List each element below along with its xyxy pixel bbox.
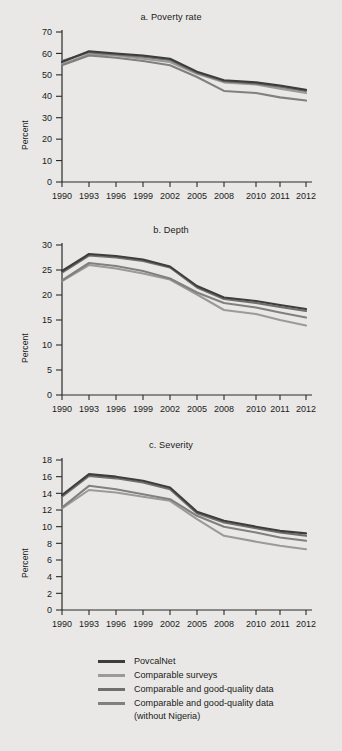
svg-text:2011: 2011 [270,619,289,629]
panel-depth: b. Depth Percent 05101520253019901993199… [0,215,342,430]
svg-text:20: 20 [42,134,52,144]
svg-text:0: 0 [47,605,52,615]
svg-text:1993: 1993 [79,619,99,629]
svg-text:2011: 2011 [270,404,289,414]
svg-text:15: 15 [42,315,52,325]
svg-text:50: 50 [42,70,52,80]
legend-swatch-good-quality-no-nigeria [98,702,125,705]
svg-text:70: 70 [42,27,52,37]
svg-text:0: 0 [47,177,52,187]
panel-poverty-rate: a. Poverty rate Percent 0102030405060701… [0,0,342,215]
svg-text:2012: 2012 [296,404,316,414]
legend-item-povcalnet: PovcalNet [0,655,342,668]
svg-text:40: 40 [42,91,52,101]
svg-text:1993: 1993 [79,191,99,201]
svg-text:10: 10 [42,522,52,532]
panel-severity: c. Severity Percent 02468101214161819901… [0,430,342,645]
svg-text:25: 25 [42,265,52,275]
svg-text:2008: 2008 [214,191,234,201]
svg-text:1990: 1990 [52,619,72,629]
svg-text:12: 12 [42,505,52,515]
plot-area-c: Percent 02468101214161819901993199619992… [0,450,342,645]
legend-label-good-quality-no-nigeria: Comparable and good-quality data (withou… [134,697,274,722]
svg-text:1996: 1996 [106,191,126,201]
svg-text:0: 0 [47,390,52,400]
svg-text:1990: 1990 [52,191,72,201]
svg-text:4: 4 [47,572,52,582]
chart-title-c: c. Severity [0,430,342,450]
plot-area-a: Percent 01020304050607019901993199619992… [0,22,342,217]
svg-text:10: 10 [42,340,52,350]
legend-swatch-good-quality [98,688,125,691]
y-axis-label-b: Percent [20,333,30,363]
svg-text:1993: 1993 [79,404,99,414]
svg-text:18: 18 [42,455,52,465]
chart-legend: PovcalNet Comparable surveys Comparable … [0,655,342,724]
legend-label-good-quality: Comparable and good-quality data [134,683,274,696]
svg-text:2002: 2002 [160,191,180,201]
svg-text:2005: 2005 [187,191,207,201]
svg-text:2: 2 [47,589,52,599]
chart-svg-a: 0102030405060701990199319961999200220052… [0,22,342,217]
legend-swatch-povcalnet [98,660,125,663]
svg-text:60: 60 [42,49,52,59]
svg-text:1999: 1999 [133,404,153,414]
svg-text:6: 6 [47,555,52,565]
svg-text:2012: 2012 [296,619,316,629]
svg-text:2005: 2005 [187,404,207,414]
svg-text:5: 5 [47,365,52,375]
chart-svg-c: 0246810121416181990199319961999200220052… [0,450,342,645]
svg-text:1996: 1996 [106,404,126,414]
svg-text:2010: 2010 [246,619,266,629]
legend-label-comparable-surveys: Comparable surveys [134,669,217,682]
legend-item-good-quality-no-nigeria: Comparable and good-quality data (withou… [0,697,342,722]
svg-text:2010: 2010 [246,191,266,201]
svg-text:2002: 2002 [160,619,180,629]
svg-text:1999: 1999 [133,619,153,629]
y-axis-label-c: Percent [20,548,30,578]
svg-text:1999: 1999 [133,191,153,201]
svg-text:1990: 1990 [52,404,72,414]
svg-text:16: 16 [42,472,52,482]
svg-text:30: 30 [42,240,52,250]
legend-item-comparable-surveys: Comparable surveys [0,669,342,682]
legend-label-povcalnet: PovcalNet [134,655,175,668]
svg-text:2008: 2008 [214,404,234,414]
plot-area-b: Percent 05101520253019901993199619992002… [0,235,342,430]
chart-title-a: a. Poverty rate [0,0,342,22]
svg-text:2012: 2012 [296,191,316,201]
svg-text:8: 8 [47,539,52,549]
svg-text:10: 10 [42,156,52,166]
svg-text:2008: 2008 [214,619,234,629]
svg-text:14: 14 [42,489,52,499]
svg-text:2002: 2002 [160,404,180,414]
svg-text:2011: 2011 [270,191,289,201]
svg-text:2005: 2005 [187,619,207,629]
svg-text:20: 20 [42,290,52,300]
legend-item-good-quality: Comparable and good-quality data [0,683,342,696]
svg-text:1996: 1996 [106,619,126,629]
chart-svg-b: 0510152025301990199319961999200220052008… [0,235,342,430]
legend-swatch-comparable-surveys [98,674,125,677]
svg-text:30: 30 [42,113,52,123]
svg-text:2010: 2010 [246,404,266,414]
chart-title-b: b. Depth [0,215,342,235]
y-axis-label-a: Percent [20,120,30,150]
